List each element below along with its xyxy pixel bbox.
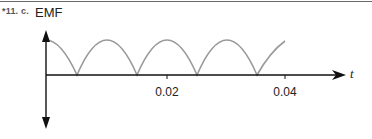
emf-curve <box>46 40 285 75</box>
x-tick-label-0.04: 0.04 <box>273 85 296 99</box>
x-tick-label-0.02: 0.02 <box>155 85 178 99</box>
y-axis-down-arrow-icon <box>42 117 50 129</box>
y-axis-up-arrow-icon <box>42 30 50 42</box>
x-axis-label: t <box>350 66 354 82</box>
emf-plot <box>0 0 372 139</box>
